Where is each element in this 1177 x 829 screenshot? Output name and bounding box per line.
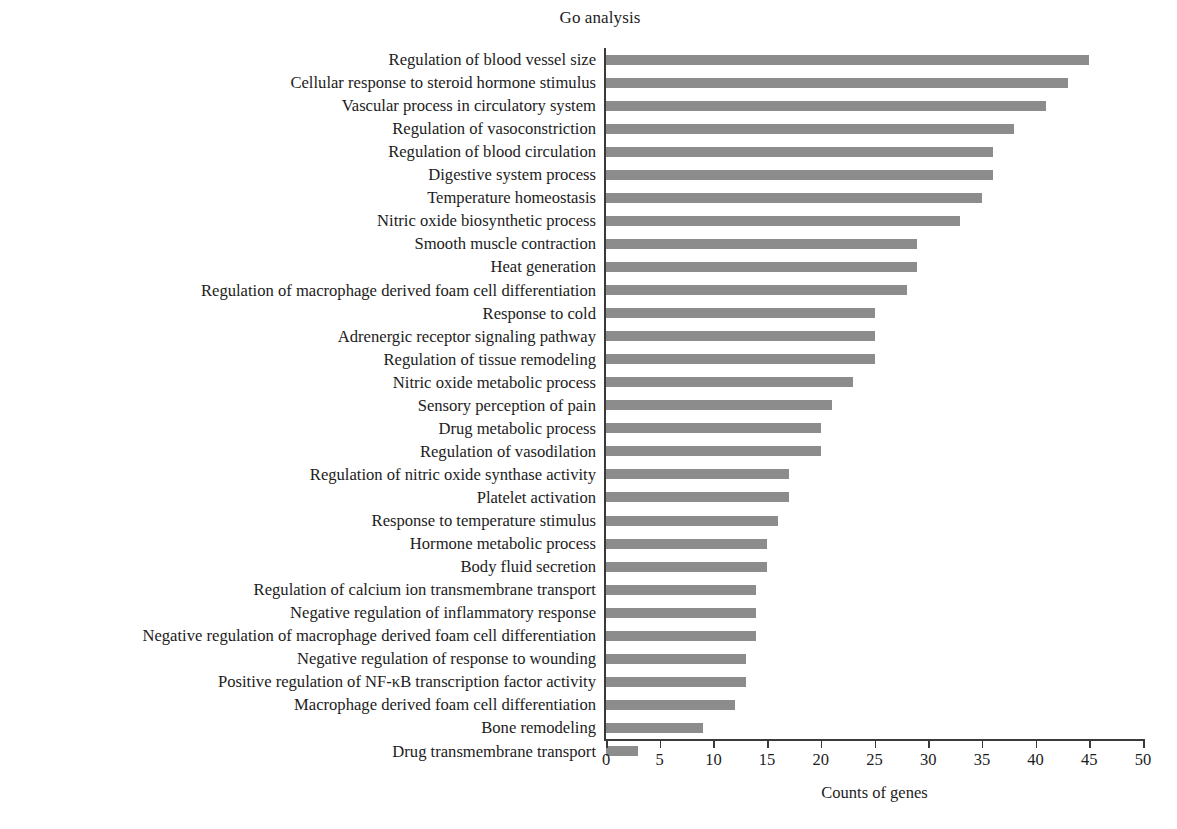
- bar-row: Regulation of vasodilation: [0, 440, 1177, 463]
- bar-row: Regulation of tissue remodeling: [0, 348, 1177, 371]
- bar: [606, 216, 960, 226]
- category-label: Heat generation: [0, 255, 596, 278]
- category-label: Regulation of calcium ion transmembrane …: [0, 578, 596, 601]
- bar-row: Regulation of macrophage derived foam ce…: [0, 279, 1177, 302]
- bar-row: Digestive system process: [0, 163, 1177, 186]
- bar-row: Cellular response to steroid hormone sti…: [0, 71, 1177, 94]
- x-tick-mark: [1089, 741, 1091, 748]
- bar-row: Hormone metabolic process: [0, 532, 1177, 555]
- bar: [606, 147, 993, 157]
- category-label: Regulation of vasodilation: [0, 440, 596, 463]
- bar-row: Regulation of vasoconstriction: [0, 117, 1177, 140]
- bar: [606, 124, 1014, 134]
- x-tick-label: 0: [586, 750, 626, 770]
- x-tick-mark: [1036, 741, 1038, 748]
- bar-row: Temperature homeostasis: [0, 186, 1177, 209]
- category-label: Temperature homeostasis: [0, 186, 596, 209]
- bar: [606, 446, 821, 456]
- chart-title: Go analysis: [0, 8, 1177, 28]
- x-tick-mark: [821, 741, 823, 748]
- bar-row: Vascular process in circulatory system: [0, 94, 1177, 117]
- bar: [606, 331, 875, 341]
- bar: [606, 400, 832, 410]
- bar-row: Adrenergic receptor signaling pathway: [0, 325, 1177, 348]
- bar-row: Bone remodeling: [0, 716, 1177, 739]
- category-label: Cellular response to steroid hormone sti…: [0, 71, 596, 94]
- x-tick-mark: [1143, 741, 1145, 748]
- go-analysis-bar-chart: Go analysis Regulation of blood vessel s…: [0, 0, 1177, 829]
- category-label: Regulation of blood vessel size: [0, 48, 596, 71]
- x-tick-label: 45: [1069, 750, 1109, 770]
- category-label: Body fluid secretion: [0, 555, 596, 578]
- x-tick-label: 40: [1016, 750, 1056, 770]
- bar-row: Regulation of calcium ion transmembrane …: [0, 578, 1177, 601]
- bar-row: Body fluid secretion: [0, 555, 1177, 578]
- bar: [606, 654, 746, 664]
- category-label: Sensory perception of pain: [0, 394, 596, 417]
- category-label: Macrophage derived foam cell differentia…: [0, 693, 596, 716]
- category-label: Regulation of blood circulation: [0, 140, 596, 163]
- bar: [606, 193, 982, 203]
- bar: [606, 308, 875, 318]
- x-tick-label: 10: [693, 750, 733, 770]
- x-tick-label: 50: [1123, 750, 1163, 770]
- x-tick-mark: [928, 741, 930, 748]
- category-label: Drug metabolic process: [0, 417, 596, 440]
- bar-row: Nitric oxide metabolic process: [0, 371, 1177, 394]
- x-tick-label: 35: [962, 750, 1002, 770]
- bar: [606, 677, 746, 687]
- category-label: Hormone metabolic process: [0, 532, 596, 555]
- bar: [606, 469, 789, 479]
- bar: [606, 239, 917, 249]
- category-label: Regulation of tissue remodeling: [0, 348, 596, 371]
- category-label: Regulation of nitric oxide synthase acti…: [0, 463, 596, 486]
- bar: [606, 354, 875, 364]
- bar: [606, 562, 767, 572]
- category-label: Smooth muscle contraction: [0, 232, 596, 255]
- bar-row: Regulation of nitric oxide synthase acti…: [0, 463, 1177, 486]
- x-tick-label: 30: [908, 750, 948, 770]
- bar-row: Negative regulation of inflammatory resp…: [0, 601, 1177, 624]
- category-label: Adrenergic receptor signaling pathway: [0, 325, 596, 348]
- bar-row: Drug metabolic process: [0, 417, 1177, 440]
- category-label: Response to cold: [0, 302, 596, 325]
- bar: [606, 423, 821, 433]
- category-label: Regulation of macrophage derived foam ce…: [0, 279, 596, 302]
- category-label: Bone remodeling: [0, 716, 596, 739]
- bar: [606, 539, 767, 549]
- bar-row: Sensory perception of pain: [0, 394, 1177, 417]
- bar: [606, 78, 1068, 88]
- bar: [606, 262, 917, 272]
- bar-row: Response to cold: [0, 302, 1177, 325]
- x-axis-title: Counts of genes: [606, 783, 1143, 803]
- bar-row: Negative regulation of response to wound…: [0, 647, 1177, 670]
- category-label: Negative regulation of inflammatory resp…: [0, 601, 596, 624]
- bar: [606, 700, 735, 710]
- x-tick-label: 15: [747, 750, 787, 770]
- category-label: Regulation of vasoconstriction: [0, 117, 596, 140]
- bar: [606, 101, 1046, 111]
- category-label: Nitric oxide metabolic process: [0, 371, 596, 394]
- category-label: Negative regulation of response to wound…: [0, 647, 596, 670]
- bar-row: Positive regulation of NF-κB transcripti…: [0, 670, 1177, 693]
- bar: [606, 516, 778, 526]
- category-label: Response to temperature stimulus: [0, 509, 596, 532]
- bar: [606, 585, 756, 595]
- category-label: Positive regulation of NF-κB transcripti…: [0, 670, 596, 693]
- bar-row: Heat generation: [0, 255, 1177, 278]
- bar: [606, 608, 756, 618]
- x-tick-mark: [660, 741, 662, 748]
- category-label: Negative regulation of macrophage derive…: [0, 624, 596, 647]
- bar: [606, 631, 756, 641]
- category-label: Nitric oxide biosynthetic process: [0, 209, 596, 232]
- bar: [606, 723, 703, 733]
- x-tick-mark: [982, 741, 984, 748]
- bar: [606, 492, 789, 502]
- bar: [606, 55, 1089, 65]
- bar-row: Negative regulation of macrophage derive…: [0, 624, 1177, 647]
- x-tick-label: 25: [855, 750, 895, 770]
- x-tick-mark: [606, 741, 608, 748]
- category-label: Platelet activation: [0, 486, 596, 509]
- bar: [606, 377, 853, 387]
- bar-row: Regulation of blood vessel size: [0, 48, 1177, 71]
